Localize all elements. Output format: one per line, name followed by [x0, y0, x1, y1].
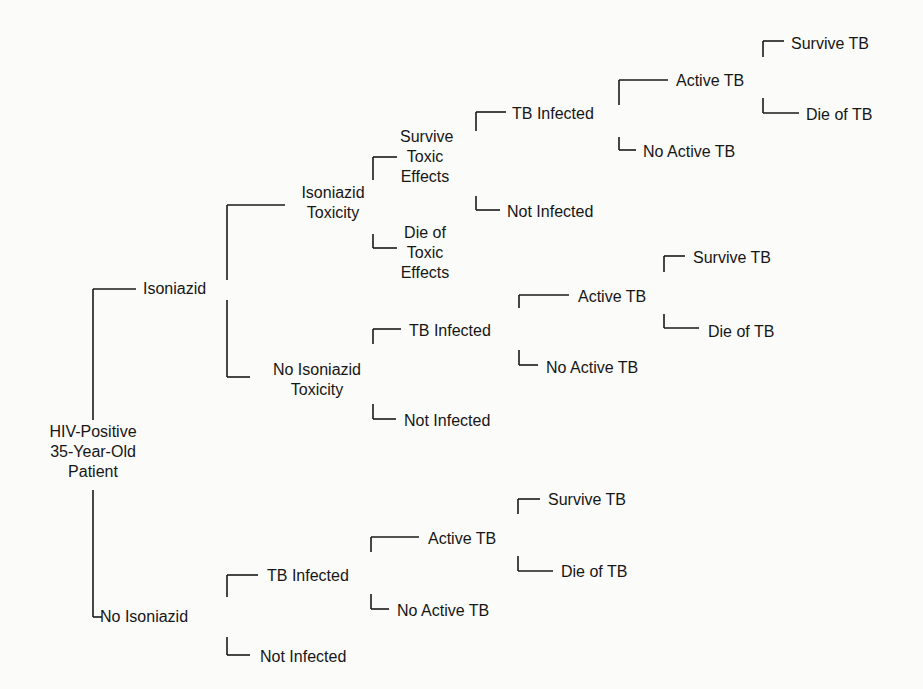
- decision-tree-connectors: [0, 0, 923, 689]
- connector-iso-to-noisotox: [227, 300, 250, 377]
- node-noisotox: No Isoniazid Toxicity: [257, 360, 377, 400]
- node-active2: Active TB: [578, 287, 646, 307]
- connector-tbinf1-to-noactive1: [619, 137, 636, 150]
- connector-isotox-to-survtox: [373, 157, 397, 180]
- node-die1: Die of TB: [806, 105, 872, 125]
- node-isotox: Isoniazid Toxicity: [292, 183, 374, 223]
- connector-survtox-to-tbinf1: [476, 112, 506, 131]
- connector-root-to-noiso: [93, 490, 102, 617]
- node-active3: Active TB: [428, 529, 496, 549]
- node-noactive2: No Active TB: [546, 358, 638, 378]
- connector-active2-to-surv2: [664, 256, 685, 272]
- connector-root-to-iso: [93, 289, 136, 420]
- node-die3: Die of TB: [561, 562, 627, 582]
- connector-active3-to-surv3: [518, 499, 540, 514]
- connector-tbinf2-to-noactive2: [519, 350, 538, 365]
- connector-noiso-to-tbinf3: [227, 575, 258, 597]
- node-tbinf2: TB Infected: [409, 321, 491, 341]
- connector-active3-to-die3: [518, 556, 553, 571]
- node-active1: Active TB: [676, 71, 744, 91]
- node-survtox: Survive Toxic Effects: [400, 127, 450, 187]
- connector-survtox-to-notinf1: [476, 196, 500, 210]
- node-noiso: No Isoniazid: [100, 607, 188, 627]
- node-noactive1: No Active TB: [643, 142, 735, 162]
- connector-tbinf2-to-active2: [519, 295, 569, 308]
- node-iso: Isoniazid: [143, 279, 206, 299]
- connector-active2-to-die2: [664, 314, 699, 328]
- connector-isotox-to-dietox: [373, 234, 397, 248]
- node-notinf2: Not Infected: [404, 411, 490, 431]
- connector-tbinf3-to-noactive3: [371, 594, 389, 609]
- connector-tbinf1-to-active1: [619, 80, 668, 105]
- connector-noiso-to-notinf3: [227, 637, 250, 655]
- node-root: HIV-Positive 35-Year-Old Patient: [30, 422, 156, 482]
- node-noactive3: No Active TB: [397, 601, 489, 621]
- node-dietox: Die of Toxic Effects: [400, 223, 450, 283]
- connector-noisotox-to-notinf2: [373, 404, 396, 419]
- node-surv1: Survive TB: [791, 34, 869, 54]
- node-die2: Die of TB: [708, 322, 774, 342]
- connector-tbinf3-to-active3: [371, 537, 419, 552]
- node-notinf1: Not Infected: [507, 202, 593, 222]
- connector-noisotox-to-tbinf2: [373, 329, 401, 344]
- node-notinf3: Not Infected: [260, 647, 346, 667]
- connector-active1-to-die1: [763, 98, 799, 113]
- node-surv2: Survive TB: [693, 248, 771, 268]
- node-tbinf1: TB Infected: [512, 104, 594, 124]
- connector-iso-to-isotox: [227, 205, 285, 280]
- node-tbinf3: TB Infected: [267, 566, 349, 586]
- node-surv3: Survive TB: [548, 490, 626, 510]
- connector-active1-to-surv1: [763, 41, 784, 57]
